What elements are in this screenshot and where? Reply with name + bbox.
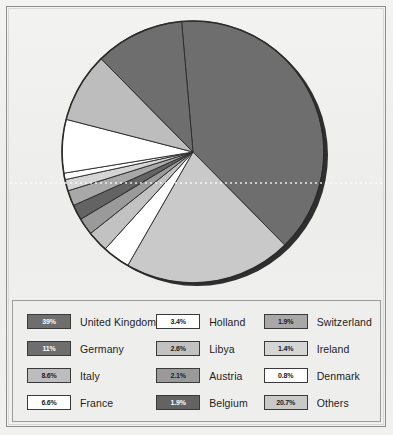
legend-label: Libya xyxy=(209,343,235,355)
legend-columns: 39%United Kingdom11%Germany8.6%Italy6.6%… xyxy=(13,301,380,421)
legend-column-3: 1.9%Switzerland1.4%Ireland0.8%Denmark20.… xyxy=(264,311,372,413)
legend-label: Italy xyxy=(80,370,100,382)
legend-label: Belgium xyxy=(209,397,248,409)
legend-box: 39%United Kingdom11%Germany8.6%Italy6.6%… xyxy=(12,300,381,422)
legend-swatch-value: 0.8% xyxy=(264,368,308,383)
legend-swatch-value: 11% xyxy=(27,341,71,356)
legend-item-denmark[interactable]: 0.8%Denmark xyxy=(264,365,372,386)
legend-swatch-value: 3.4% xyxy=(156,314,200,329)
legend-item-france[interactable]: 6.6%France xyxy=(27,392,156,413)
legend-label: Holland xyxy=(209,316,245,328)
chart-frame: 39%United Kingdom11%Germany8.6%Italy6.6%… xyxy=(0,0,393,435)
legend-swatch-value: 2.6% xyxy=(156,341,200,356)
legend-label: Others xyxy=(317,397,349,409)
legend-label: France xyxy=(80,397,113,409)
legend-label: Denmark xyxy=(317,370,360,382)
legend-label: Germany xyxy=(80,343,124,355)
legend-item-others[interactable]: 20.7%Others xyxy=(264,392,372,413)
legend-item-libya[interactable]: 2.6%Libya xyxy=(156,338,264,359)
legend-label: Switzerland xyxy=(317,316,372,328)
legend-item-austria[interactable]: 2.1%Austria xyxy=(156,365,264,386)
legend-item-germany[interactable]: 11%Germany xyxy=(27,338,156,359)
legend-item-united-kingdom[interactable]: 39%United Kingdom xyxy=(27,311,156,332)
legend-swatch-value: 6.6% xyxy=(27,395,71,410)
legend-swatch-value: 2.1% xyxy=(156,368,200,383)
legend-item-belgium[interactable]: 1.9%Belgium xyxy=(156,392,264,413)
legend-swatch-value: 1.9% xyxy=(264,314,308,329)
legend-item-switzerland[interactable]: 1.9%Switzerland xyxy=(264,311,372,332)
legend-swatch-value: 20.7% xyxy=(264,395,308,410)
legend-swatch-value: 1.4% xyxy=(264,341,308,356)
pie-chart-svg xyxy=(56,8,336,290)
pie-chart xyxy=(56,8,336,290)
legend-swatch-value: 1.9% xyxy=(156,395,200,410)
legend-label: United Kingdom xyxy=(80,316,156,328)
legend-label: Austria xyxy=(209,370,242,382)
legend-column-2: 3.4%Holland2.6%Libya2.1%Austria1.9%Belgi… xyxy=(156,311,264,413)
legend-label: Ireland xyxy=(317,343,350,355)
legend-item-holland[interactable]: 3.4%Holland xyxy=(156,311,264,332)
legend-swatch-value: 39% xyxy=(27,314,71,329)
legend-item-italy[interactable]: 8.6%Italy xyxy=(27,365,156,386)
legend-swatch-value: 8.6% xyxy=(27,368,71,383)
legend-item-ireland[interactable]: 1.4%Ireland xyxy=(264,338,372,359)
legend-column-1: 39%United Kingdom11%Germany8.6%Italy6.6%… xyxy=(27,311,156,413)
